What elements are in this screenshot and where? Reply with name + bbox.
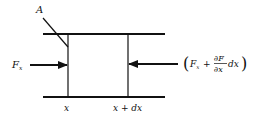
- open-paren: (: [183, 54, 189, 73]
- area-leader-line: [43, 18, 68, 47]
- expr-differential: dx: [228, 59, 239, 69]
- expr-numerator: ∂F: [214, 54, 224, 63]
- left-position-label: x: [64, 103, 69, 113]
- right-position-label: x + dx: [113, 103, 142, 113]
- area-label: A: [35, 4, 43, 15]
- expr-plus: +: [203, 59, 211, 69]
- bar-element-diagram: A Fx ( Fx + ∂F ∂x dx ) x x + dx: [0, 0, 256, 120]
- expr-base: Fx: [189, 59, 200, 70]
- left-force-label: Fx: [11, 59, 23, 71]
- expr-denominator: ∂x: [214, 65, 223, 74]
- close-paren: ): [241, 54, 247, 73]
- right-force-expression: ( Fx + ∂F ∂x dx ): [183, 54, 247, 74]
